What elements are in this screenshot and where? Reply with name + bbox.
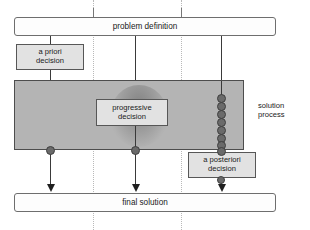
a-priori-decision-label-line2: decision [36,57,64,66]
top-stub-right [181,8,182,17]
solution-process-label: solution process [258,101,308,120]
arrowhead-aposteriori [218,184,226,192]
arrow-shaft-apriori [50,152,51,185]
exit-node-aposteriori [217,176,225,184]
top-stub-left [93,8,94,17]
a-posteriori-decision-label-line2: decision [208,165,236,174]
progressive-decision-box: progressive decision [96,99,168,126]
problem-definition-label: problem definition [113,22,178,32]
connector-problem-to-aposteriori [221,36,222,81]
exit-node-progressive [131,146,140,155]
problem-definition-box: problem definition [14,17,276,36]
arrowhead-apriori [47,184,55,192]
connector-problem-to-apriori [50,36,51,44]
arrowhead-progressive [132,184,140,192]
progressive-decision-label-line2: decision [118,113,146,122]
final-solution-label: final solution [122,198,168,208]
exit-node-apriori [46,146,55,155]
iteration-node-8 [217,147,226,156]
a-priori-decision-box: a priori decision [16,44,84,70]
final-solution-box: final solution [14,193,276,212]
solution-process-label-line1: solution [258,101,308,110]
arrow-shaft-progressive [135,152,136,185]
connector-problem-to-progressive [135,36,136,81]
solution-process-label-line2: process [258,110,308,119]
diagram-canvas: problem definition a priori decision pro… [0,0,310,230]
